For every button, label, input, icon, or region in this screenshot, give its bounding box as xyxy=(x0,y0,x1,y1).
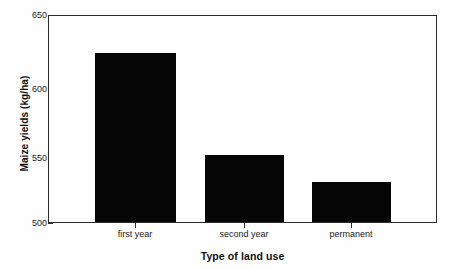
y-axis: 650 600 550 500 xyxy=(0,0,48,269)
x-tick-mark-first-year xyxy=(135,223,136,228)
x-tick-label-second-year: second year xyxy=(194,229,294,239)
y-tick-label-550: 550 xyxy=(32,152,47,164)
bar-second-year xyxy=(205,155,284,222)
bar-chart-figure: Maize yields (kg/ha) 650 600 550 500 fir… xyxy=(0,0,449,269)
x-tick-label-first-year: first year xyxy=(85,229,185,239)
y-tick-label-650: 650 xyxy=(32,9,47,21)
bar-first-year xyxy=(95,53,176,222)
x-tick-mark-second-year xyxy=(244,223,245,228)
x-tick-label-permanent: permanent xyxy=(301,229,401,239)
plot-area xyxy=(48,15,437,223)
x-tick-mark-permanent xyxy=(351,223,352,228)
x-axis-title: Type of land use xyxy=(48,250,437,262)
bar-permanent xyxy=(312,182,391,222)
y-tick-label-600: 600 xyxy=(32,83,47,95)
y-tick-label-500: 500 xyxy=(32,217,47,229)
y-tick-mark-500 xyxy=(48,223,53,224)
